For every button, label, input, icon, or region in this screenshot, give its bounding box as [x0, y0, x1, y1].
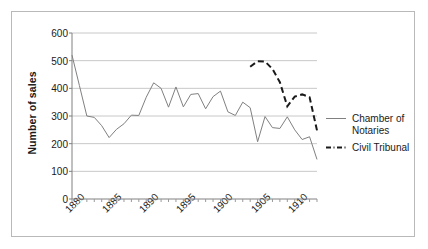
legend-entry-civil-tribunal: Civil Tribunal [325, 142, 409, 154]
legend-label-civil-tribunal: Civil Tribunal [352, 142, 409, 154]
gridlines [72, 33, 317, 171]
series-line-civil-tribunal [250, 61, 317, 130]
legend-swatch-dashed-line [325, 142, 347, 153]
legend-swatch-solid-line [325, 113, 347, 124]
legend-label-chamber-line2: Notaries [352, 125, 404, 137]
legend-label-chamber-line1: Chamber of [352, 113, 404, 125]
legend-entry-chamber-of-notaries: Chamber of Notaries [325, 113, 404, 136]
